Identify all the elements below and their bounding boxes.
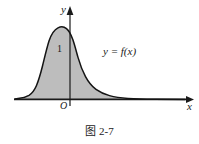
y-axis-label: y	[61, 4, 66, 15]
curve-function-label: y = f(x)	[103, 46, 136, 57]
origin-label: O	[60, 101, 67, 111]
x-axis-label: x	[187, 101, 192, 112]
y-axis-arrowhead	[67, 6, 74, 15]
figure-caption: 图 2-7	[0, 122, 199, 138]
figure-container: y x O 1 y = f(x) 图 2-7	[0, 0, 199, 144]
area-under-curve-shading	[15, 27, 185, 100]
area-value-label: 1	[57, 44, 62, 54]
